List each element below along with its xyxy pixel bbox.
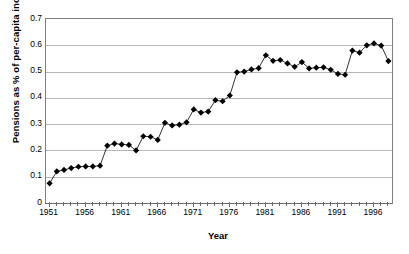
x-tick [272,202,273,206]
x-tick [214,202,215,206]
data-point-marker [61,167,67,173]
data-point-marker [241,68,247,74]
x-tick [380,202,381,206]
data-point-marker [234,69,240,75]
x-tick [294,202,295,206]
data-point-marker [111,140,117,146]
data-point-marker [54,168,60,174]
x-tick [359,202,360,206]
x-tick [178,202,179,206]
x-tick [106,202,107,206]
x-tick-label: 1986 [281,207,321,217]
x-tick [323,202,324,206]
x-tick-label: 1971 [173,207,213,217]
y-tick-label: 0 [14,198,42,207]
y-tick-label: 0.5 [14,66,42,75]
data-point-marker [104,143,110,149]
y-tick-label: 0.4 [14,92,42,101]
x-tick [250,202,251,206]
x-tick [351,202,352,206]
data-point-marker [385,58,391,64]
y-tick-label: 0.2 [14,145,42,154]
data-point-marker [68,165,74,171]
x-tick [258,202,259,206]
data-point-marker [47,180,53,186]
x-tick [308,202,309,206]
data-point-marker [119,141,125,147]
x-tick [330,202,331,206]
data-point-marker [378,42,384,48]
x-tick [92,202,93,206]
data-point-marker [198,109,204,115]
data-point-marker [342,72,348,78]
data-point-marker [263,52,269,58]
x-tick [135,202,136,206]
data-point-marker [292,64,298,70]
pension-chart: Pensions as % of per-capita income 00.10… [0,0,409,254]
x-tick [186,202,187,206]
x-tick [70,202,71,206]
data-point-marker [313,65,319,71]
x-tick [171,202,172,206]
x-tick [279,202,280,206]
x-axis-title: Year [45,230,391,241]
data-point-marker [176,122,182,128]
x-tick-label: 1981 [245,207,285,217]
data-point-marker [140,133,146,139]
x-tick-label: 1951 [29,207,69,217]
data-point-marker [162,120,168,126]
data-point-marker [191,106,197,112]
data-point-marker [248,66,254,72]
x-tick-label: 1961 [101,207,141,217]
plot-area [45,18,393,204]
data-point-marker [256,65,262,71]
data-point-marker [277,57,283,63]
data-point-marker [328,67,334,73]
x-tick [56,202,57,206]
data-point-marker [75,164,81,170]
data-point-marker [212,97,218,103]
data-point-marker [126,142,132,148]
y-tick-label: 0.7 [14,14,42,23]
x-tick [207,202,208,206]
data-point-marker [97,163,103,169]
x-tick-label: 1966 [137,207,177,217]
x-tick [63,202,64,206]
x-tick [200,202,201,206]
x-tick [99,202,100,206]
data-point-marker [133,147,139,153]
data-point-marker [320,64,326,70]
series-line [50,43,389,183]
x-tick [366,202,367,206]
x-axis-tick-labels: 1951195619611966197119761981198619911996 [0,207,409,221]
x-tick [243,202,244,206]
x-tick [150,202,151,206]
data-point-marker [371,40,377,46]
x-tick [142,202,143,206]
x-tick [236,202,237,206]
x-tick [315,202,316,206]
data-point-marker [284,60,290,66]
x-tick [164,202,165,206]
data-series [46,19,392,203]
data-point-marker [335,71,341,77]
y-tick-label: 0.3 [14,119,42,128]
x-tick-label: 1956 [65,207,105,217]
data-point-marker [183,119,189,125]
x-tick [128,202,129,206]
data-point-marker [147,134,153,140]
x-tick-label: 1976 [209,207,249,217]
data-point-marker [349,47,355,53]
x-tick-label: 1991 [317,207,357,217]
x-tick [222,202,223,206]
data-point-marker [83,163,89,169]
data-point-marker [169,122,175,128]
x-tick [286,202,287,206]
x-tick-label: 1996 [353,207,393,217]
x-tick [344,202,345,206]
data-point-marker [155,137,161,143]
x-tick [77,202,78,206]
data-point-marker [270,58,276,64]
x-tick [113,202,114,206]
data-point-marker [90,163,96,169]
